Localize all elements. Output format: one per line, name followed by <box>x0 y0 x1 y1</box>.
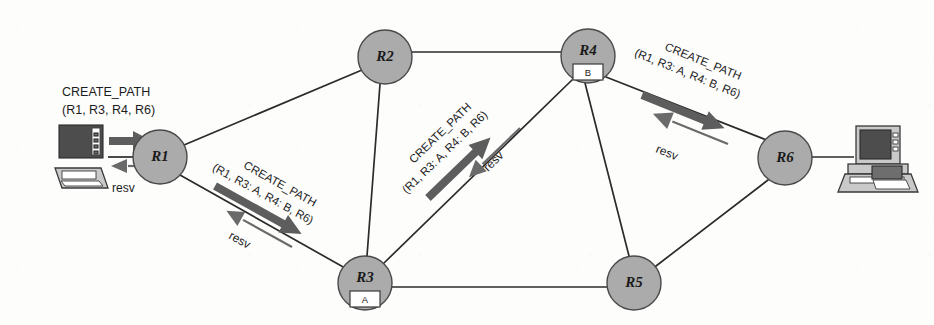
node-r2[interactable]: R2 <box>358 30 412 84</box>
edge-r4-r5 <box>585 83 629 256</box>
node-r4[interactable]: R4 B <box>561 29 615 83</box>
node-r6-label: R6 <box>775 149 794 165</box>
label-resv-host-r1: resv <box>112 181 135 195</box>
node-r5-label: R5 <box>624 274 643 290</box>
label-create-path-host-r1-line2: (R1, R3, R4, R6) <box>62 103 155 117</box>
label-resv-r4-r6: resv <box>654 142 680 163</box>
host-left-screen-button-3 <box>94 145 98 148</box>
node-r3[interactable]: R3 A <box>338 256 392 310</box>
node-r1[interactable]: R1 <box>133 130 187 184</box>
host-right-keyboard-wedge <box>873 180 910 189</box>
label-create-path-r4-r6: CREATE_PATH (R1, R3: A, R4: B, R6) <box>633 31 749 100</box>
label-create-path-host-r1-line1: CREATE_PATH <box>62 85 150 99</box>
diagram-canvas: R1 R2 R3 A R4 B R5 <box>0 0 934 325</box>
node-r4-sub-box-label: B <box>585 67 591 78</box>
arrow-create-path-r4-r6 <box>638 86 728 138</box>
edge-r4-r6 <box>606 77 769 141</box>
node-r2-label: R2 <box>375 48 394 64</box>
host-left-screen-button-2 <box>94 139 98 142</box>
create-path-arrow-group <box>109 86 728 243</box>
host-left-keyboard-palmrest <box>61 181 103 186</box>
host-left-screen-button-1 <box>94 133 98 136</box>
node-r1-label: R1 <box>150 148 169 164</box>
label-create-path-host-r1: CREATE_PATH (R1, R3, R4, R6) <box>62 85 155 117</box>
host-left-screen-button-4 <box>94 151 98 154</box>
node-r4-label: R4 <box>578 42 597 58</box>
host-right-screen-button-3 <box>893 147 898 151</box>
host-left[interactable] <box>55 125 108 188</box>
node-r6[interactable]: R6 <box>758 131 812 185</box>
host-right-screen-button-2 <box>893 140 898 144</box>
label-resv-r1-r3: resv <box>227 228 254 251</box>
host-right-screen-button-1 <box>893 133 898 137</box>
node-r5[interactable]: R5 <box>607 256 661 310</box>
edge-r1-r2 <box>184 70 362 145</box>
host-right-keyboard <box>872 166 902 179</box>
host-right[interactable] <box>838 126 918 192</box>
node-r3-sub-box-label: A <box>362 294 369 305</box>
node-r3-label: R3 <box>355 269 374 285</box>
network-diagram: R1 R2 R3 A R4 B R5 <box>0 0 934 325</box>
host-right-screen <box>860 130 891 159</box>
edge-r5-r6 <box>656 180 768 266</box>
host-left-keyboard-keys <box>62 171 96 179</box>
edge-r2-r3 <box>367 84 380 256</box>
